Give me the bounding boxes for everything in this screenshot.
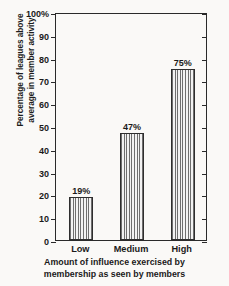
y-axis-tick-left: [51, 82, 56, 83]
bar-medium: 47%: [120, 133, 144, 240]
y-axis-tick-right: [202, 196, 207, 197]
bar-chart-figure: Percentage of leagues above average in m…: [0, 0, 229, 286]
y-axis-tick-left: [51, 14, 56, 15]
y-axis-tick-right: [202, 60, 207, 61]
y-axis-tick-left: [51, 105, 56, 106]
x-axis-title-line-1: Amount of influence exercised by: [0, 257, 229, 269]
x-axis-tick-label-medium: Medium: [114, 244, 149, 254]
y-axis-title-line-1: Percentage of leagues above: [15, 14, 26, 127]
y-axis-tick-left: [51, 219, 56, 220]
y-axis-tick-label: 70: [39, 77, 49, 87]
y-axis-tick-label: 100%: [26, 9, 49, 19]
y-axis-tick-right: [202, 105, 207, 106]
y-axis-tick-right: [202, 37, 207, 38]
bar-value-label: 47%: [123, 122, 141, 132]
y-axis-tick-label: 40: [39, 146, 49, 156]
y-axis-tick-left: [51, 174, 56, 175]
bar-low: 19%: [69, 197, 93, 240]
y-axis-tick-right: [202, 128, 207, 129]
y-axis-tick-label: 10: [39, 214, 49, 224]
y-axis-tick-left: [51, 196, 56, 197]
y-axis-tick-label: 60: [39, 100, 49, 110]
y-axis-tick-left: [51, 60, 56, 61]
y-axis-tick-left: [51, 128, 56, 129]
x-axis-title: Amount of influence exercised by members…: [0, 257, 229, 280]
y-axis-tick-right: [202, 219, 207, 220]
y-axis-tick-left: [51, 37, 56, 38]
y-axis-tick-label: 20: [39, 191, 49, 201]
y-axis-tick-right: [202, 151, 207, 152]
y-axis-tick-right: [202, 82, 207, 83]
y-axis-tick-label: 0: [44, 237, 49, 247]
bar-value-label: 75%: [174, 58, 192, 68]
y-axis-tick-left: [51, 151, 56, 152]
plot-area: 0102030405060708090100%19%47%75%: [55, 13, 207, 241]
y-axis-tick-label: 30: [39, 169, 49, 179]
y-axis-tick-right: [202, 242, 207, 243]
y-axis-title-line-2: average in member activity: [26, 17, 37, 122]
bar-high: 75%: [171, 69, 195, 240]
y-axis-title: Percentage of leagues above average in m…: [11, 0, 41, 163]
bar-value-label: 19%: [72, 186, 90, 196]
x-axis-tick-label-high: High: [171, 244, 191, 254]
y-axis-tick-label: 80: [39, 55, 49, 65]
x-axis-tick-label-low: Low: [71, 244, 89, 254]
y-axis-tick-label: 50: [39, 123, 49, 133]
y-axis-tick-label: 90: [39, 32, 49, 42]
y-axis-tick-left: [51, 242, 56, 243]
x-axis-title-line-2: membership as seen by members: [0, 269, 229, 281]
y-axis-tick-right: [202, 14, 207, 15]
y-axis-tick-right: [202, 174, 207, 175]
